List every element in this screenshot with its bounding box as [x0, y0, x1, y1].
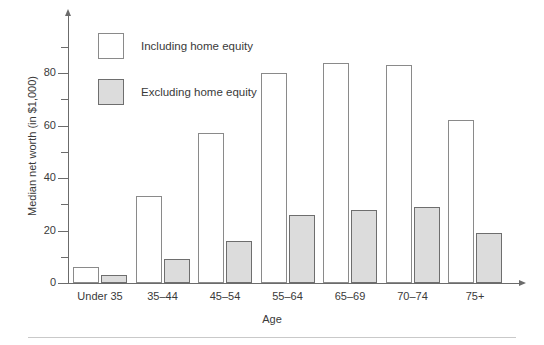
bar-excluding [476, 233, 502, 283]
bar-excluding [226, 241, 252, 283]
footer-divider [28, 337, 516, 338]
legend-label: Including home equity [141, 40, 253, 52]
x-tick-label: 75+ [435, 290, 515, 302]
x-axis-title: Age [0, 313, 544, 325]
bar-excluding [414, 207, 440, 283]
bar-including [323, 63, 349, 284]
bar-chart: 020406080 Median net worth (in $1,000) U… [0, 0, 544, 345]
y-tick-major [58, 283, 69, 284]
bar-including [448, 120, 474, 283]
y-tick-label: 0 [16, 277, 56, 288]
legend-swatch-icon [98, 79, 124, 105]
chart-legend: Including home equityExcluding home equi… [98, 33, 257, 125]
bar-excluding [101, 275, 127, 283]
legend-swatch-icon [98, 33, 124, 59]
x-axis-arrow-icon [519, 280, 526, 286]
bar-including [73, 267, 99, 283]
legend-item: Excluding home equity [98, 79, 257, 105]
legend-label: Excluding home equity [141, 86, 257, 98]
bar-excluding [351, 210, 377, 284]
bar-including [386, 65, 412, 283]
bar-including [198, 133, 224, 283]
y-axis-title: Median net worth (in $1,000) [26, 51, 38, 241]
legend-item: Including home equity [98, 33, 257, 59]
bar-excluding [289, 215, 315, 283]
bar-including [136, 196, 162, 283]
x-axis-line [68, 283, 520, 284]
bar-including [261, 73, 287, 283]
bar-excluding [164, 259, 190, 283]
